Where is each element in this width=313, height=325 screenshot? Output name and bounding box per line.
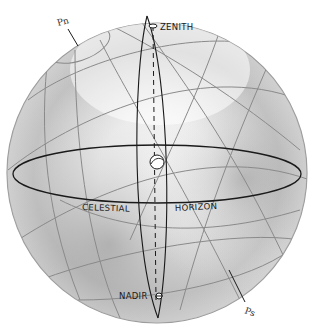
celestial-sphere-diagram: ZENITH NADIR CELESTIAL HORIZON Pn Ps [0,0,313,325]
zenith-label: ZENITH [160,22,193,32]
nadir-label: NADIR [119,291,148,301]
observer-icon [150,155,164,169]
south-pole-label: Ps [243,305,257,318]
celestial-label: CELESTIAL [82,202,130,214]
north-celestial-pole: Pn [56,15,78,46]
north-pole-label: Pn [56,15,70,28]
